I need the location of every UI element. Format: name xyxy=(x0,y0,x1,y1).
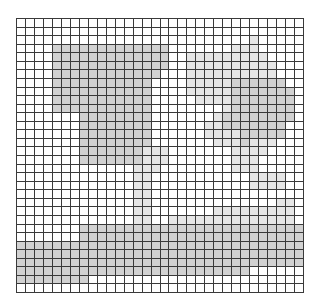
grid-cell xyxy=(26,242,35,251)
grid-cell xyxy=(277,28,286,37)
grid-cell xyxy=(17,139,26,148)
grid-cell xyxy=(205,79,214,88)
grid-cell xyxy=(250,45,259,54)
grid-cell xyxy=(214,53,223,62)
grid-cell xyxy=(107,173,116,182)
grid-cell xyxy=(161,250,170,259)
grid-cell xyxy=(53,173,62,182)
grid-cell xyxy=(152,130,161,139)
grid-cell xyxy=(71,199,80,208)
grid-cell xyxy=(26,113,35,122)
grid-cell xyxy=(187,113,196,122)
grid-cell xyxy=(277,88,286,97)
grid-cell xyxy=(89,199,98,208)
grid-cell xyxy=(223,242,232,251)
grid-cell xyxy=(35,96,44,105)
grid-cell xyxy=(223,225,232,234)
grid-cell xyxy=(205,28,214,37)
grid-cell xyxy=(241,233,250,242)
grid-cell xyxy=(161,113,170,122)
grid-cell xyxy=(178,53,187,62)
grid-cell xyxy=(143,216,152,225)
grid-cell xyxy=(232,156,241,165)
grid-cell xyxy=(268,267,277,276)
grid-cell xyxy=(53,105,62,114)
grid-cell xyxy=(223,156,232,165)
grid-cell xyxy=(107,284,116,293)
grid-cell xyxy=(286,70,295,79)
grid-cell xyxy=(205,267,214,276)
grid-cell xyxy=(286,173,295,182)
grid-cell xyxy=(98,113,107,122)
grid-cell xyxy=(107,19,116,28)
grid-cell xyxy=(268,242,277,251)
grid-cell xyxy=(125,28,134,37)
grid-cell xyxy=(214,36,223,45)
grid-cell xyxy=(286,199,295,208)
grid-cell xyxy=(268,259,277,268)
grid-cell xyxy=(143,147,152,156)
grid-cell xyxy=(134,216,143,225)
grid-cell xyxy=(169,173,178,182)
grid-cell xyxy=(169,139,178,148)
grid-cell xyxy=(205,276,214,285)
grid-cell xyxy=(259,139,268,148)
grid-cell xyxy=(232,242,241,251)
grid-cell xyxy=(80,53,89,62)
grid-cell xyxy=(134,225,143,234)
grid-cell xyxy=(44,45,53,54)
grid-cell xyxy=(116,259,125,268)
grid-cell xyxy=(53,139,62,148)
grid-cell xyxy=(26,88,35,97)
grid-cell xyxy=(44,96,53,105)
grid-cell xyxy=(143,53,152,62)
grid-cell xyxy=(80,36,89,45)
grid-cell xyxy=(205,199,214,208)
grid-cell xyxy=(223,130,232,139)
grid-cell xyxy=(169,130,178,139)
grid-cell xyxy=(143,267,152,276)
grid-cell xyxy=(169,79,178,88)
grid-cell xyxy=(53,216,62,225)
grid-cell xyxy=(223,62,232,71)
grid-cell xyxy=(98,199,107,208)
grid-cell xyxy=(80,45,89,54)
grid-cell xyxy=(89,147,98,156)
grid-cell xyxy=(214,259,223,268)
grid-cell xyxy=(161,233,170,242)
grid-cell xyxy=(26,190,35,199)
grid-cell xyxy=(223,45,232,54)
grid-cell xyxy=(62,36,71,45)
grid-cell xyxy=(250,173,259,182)
grid-cell xyxy=(232,70,241,79)
grid-cell xyxy=(241,139,250,148)
grid-cell xyxy=(62,242,71,251)
grid-cell xyxy=(295,233,304,242)
grid-cell xyxy=(205,130,214,139)
grid-cell xyxy=(223,79,232,88)
grid-cell xyxy=(71,19,80,28)
grid-cell xyxy=(205,88,214,97)
grid-cell xyxy=(71,122,80,131)
grid-cell xyxy=(295,19,304,28)
grid-cell xyxy=(196,130,205,139)
grid-cell xyxy=(107,233,116,242)
grid-cell xyxy=(17,284,26,293)
grid-cell xyxy=(62,165,71,174)
grid-cell xyxy=(134,122,143,131)
grid-cell xyxy=(187,53,196,62)
grid-cell xyxy=(107,182,116,191)
grid-cell xyxy=(286,216,295,225)
grid-cell xyxy=(44,276,53,285)
grid-cell xyxy=(250,53,259,62)
grid-cell xyxy=(250,259,259,268)
grid-cell xyxy=(250,242,259,251)
grid-cell xyxy=(250,165,259,174)
grid-cell xyxy=(125,182,134,191)
grid-cell xyxy=(71,225,80,234)
grid-cell xyxy=(214,182,223,191)
grid-cell xyxy=(152,259,161,268)
grid-cell xyxy=(35,70,44,79)
grid-cell xyxy=(196,276,205,285)
grid-cell xyxy=(214,105,223,114)
